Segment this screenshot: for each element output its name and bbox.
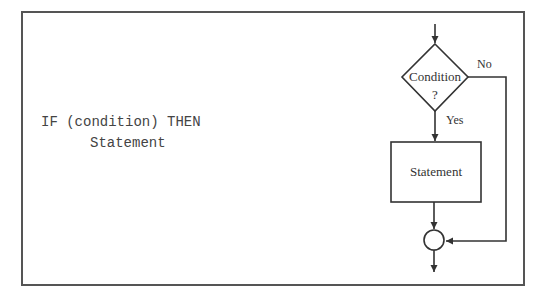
flowchart: Condition ? Yes Statement No: [0, 0, 545, 298]
decision-label-condition: Condition: [409, 69, 462, 84]
statement-box-label: Statement: [410, 164, 462, 179]
no-label: No: [477, 57, 492, 71]
join-connector: [424, 230, 444, 250]
yes-label: Yes: [446, 113, 464, 127]
decision-label-question: ?: [432, 87, 438, 102]
